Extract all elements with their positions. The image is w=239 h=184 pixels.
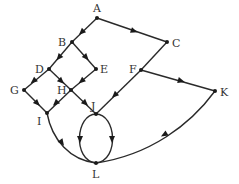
node-L	[94, 161, 98, 165]
arrow-icon	[177, 77, 185, 85]
node-I	[45, 111, 49, 115]
node-K	[213, 89, 217, 93]
label-I: I	[37, 115, 41, 128]
edge-J-L-left	[79, 114, 96, 163]
edge-C-F	[141, 42, 167, 70]
label-H: H	[57, 84, 67, 97]
label-K: K	[220, 86, 229, 99]
node-F	[139, 68, 143, 72]
label-J: J	[90, 100, 95, 113]
label-L: L	[92, 168, 100, 181]
directed-graph-diagram: A B C D E F G H I J K L	[0, 0, 239, 184]
label-B: B	[58, 36, 66, 49]
arrow-icon	[77, 136, 83, 143]
edge-K-L	[96, 91, 215, 163]
edge-F-J	[96, 70, 141, 114]
edges	[24, 18, 215, 163]
node-D	[47, 67, 51, 71]
label-A: A	[92, 2, 102, 15]
arrow-icon	[51, 99, 60, 108]
edge-A-B	[72, 18, 97, 42]
label-F: F	[129, 63, 137, 76]
node-A	[95, 16, 99, 20]
label-E: E	[100, 63, 108, 76]
label-D: D	[35, 63, 44, 76]
label-C: C	[172, 37, 180, 50]
node-B	[70, 40, 74, 44]
node-C	[165, 40, 169, 44]
node-G	[22, 88, 26, 92]
arrow-icon	[109, 136, 115, 143]
edge-I-L	[47, 113, 96, 163]
edge-J-L-right	[96, 114, 113, 163]
label-G: G	[10, 84, 19, 97]
node-E	[94, 67, 98, 71]
node-H	[69, 88, 73, 92]
